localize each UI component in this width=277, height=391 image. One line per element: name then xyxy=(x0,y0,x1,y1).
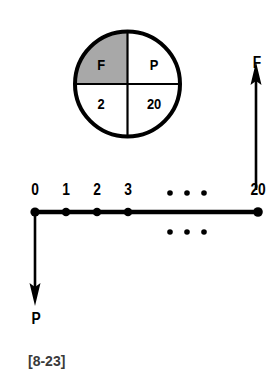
quadrant-label-f: F xyxy=(79,57,124,72)
timeline-dot-1 xyxy=(62,208,71,217)
future-value-arrow-label: F xyxy=(249,55,264,71)
timeline-label-3: 3 xyxy=(118,182,139,198)
quadrant-circle-graphic xyxy=(75,32,180,137)
present-value-arrow-graphic xyxy=(30,212,41,306)
quadrant-label-20: 20 xyxy=(132,96,177,111)
quadrant-label-2: 2 xyxy=(79,96,124,111)
ellipsis-below-line xyxy=(167,229,207,235)
ellipsis-above-line xyxy=(167,190,207,196)
timeline-label-1: 1 xyxy=(56,182,77,198)
present-value-arrow-label: P xyxy=(28,311,43,327)
timeline-label-0: 0 xyxy=(25,182,46,198)
quadrant-label-p: P xyxy=(132,57,177,72)
timeline-dot-20 xyxy=(253,207,263,217)
timeline-label-20: 20 xyxy=(246,182,270,198)
cash-flow-figure: F P 2 20 0 1 2 3 20 F P [8-23] xyxy=(0,0,277,391)
future-value-arrow-graphic xyxy=(251,62,262,190)
timeline-dot-3 xyxy=(124,208,133,217)
timeline-label-2: 2 xyxy=(87,182,108,198)
figure-caption: [8-23] xyxy=(28,353,65,369)
timeline-graphic xyxy=(30,207,262,217)
timeline-dot-2 xyxy=(93,208,102,217)
